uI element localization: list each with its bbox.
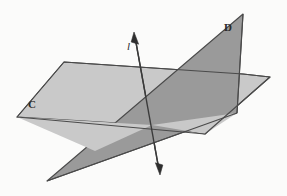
- line-l-arrowhead-up: [131, 32, 138, 44]
- geometry-figure: C D l: [0, 0, 287, 196]
- geometry-canvas: [0, 0, 287, 196]
- plane-d-label: D: [224, 22, 232, 33]
- line-l-arrowhead-down: [155, 163, 162, 175]
- line-l-label: l: [127, 41, 130, 52]
- plane-c-label: C: [28, 99, 36, 110]
